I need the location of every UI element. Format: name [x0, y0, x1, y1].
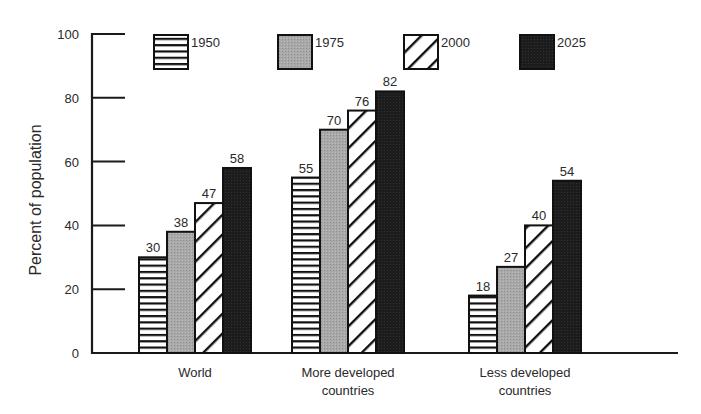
x-category-label: countries [322, 383, 375, 398]
bar-2000 [525, 225, 553, 353]
legend-label: 1975 [315, 35, 344, 50]
bar-1975 [497, 267, 525, 353]
x-category-label: Less developed [479, 365, 570, 380]
x-category-label: countries [499, 383, 552, 398]
data-label: 70 [327, 113, 341, 128]
bar-2000 [348, 111, 376, 353]
legend-swatch [404, 35, 438, 69]
bar-group: 30384758World [139, 151, 251, 380]
legend-item-2025: 2025 [520, 35, 586, 69]
legend-swatch [154, 35, 188, 69]
y-tick-label: 20 [65, 282, 79, 297]
data-label: 82 [383, 74, 397, 89]
bar-group: 18274054Less developedcountries [469, 164, 581, 398]
bar-2025 [376, 91, 404, 353]
y-tick-label: 40 [65, 218, 79, 233]
legend-item-2000: 2000 [404, 35, 470, 69]
y-axis-label: Percent of population [27, 124, 44, 275]
data-label: 40 [532, 208, 546, 223]
bar-group: 55707682More developedcountries [292, 74, 404, 398]
bar-1950 [469, 296, 497, 353]
y-tick-label: 60 [65, 155, 79, 170]
legend-swatch [278, 35, 312, 69]
data-label: 58 [230, 151, 244, 166]
data-label: 54 [560, 164, 574, 179]
bar-1950 [292, 178, 320, 353]
bar-1950 [139, 257, 167, 353]
x-category-label: World [178, 365, 212, 380]
bars: 30384758World55707682More developedcount… [139, 74, 581, 398]
y-axis-title: Percent of population [27, 124, 44, 275]
legend-label: 2000 [441, 35, 470, 50]
bar-2025 [553, 181, 581, 353]
data-label: 55 [299, 161, 313, 176]
bar-2025 [223, 168, 251, 353]
legend: 1950197520002025 [154, 35, 586, 69]
legend-label: 1950 [191, 35, 220, 50]
y-tick-label: 80 [65, 91, 79, 106]
bar-1975 [320, 130, 348, 353]
data-label: 38 [174, 215, 188, 230]
bar-2000 [195, 203, 223, 353]
legend-item-1975: 1975 [278, 35, 344, 69]
legend-item-1950: 1950 [154, 35, 220, 69]
data-label: 47 [202, 186, 216, 201]
data-label: 18 [476, 279, 490, 294]
y-tick-label: 100 [57, 27, 79, 42]
bar-chart: 020406080100 30384758World55707682More d… [0, 0, 701, 414]
legend-label: 2025 [557, 35, 586, 50]
legend-swatch [520, 35, 554, 69]
data-label: 27 [504, 250, 518, 265]
chart-canvas: 020406080100 30384758World55707682More d… [0, 0, 701, 414]
x-category-label: More developed [301, 365, 394, 380]
bar-1975 [167, 232, 195, 353]
data-label: 30 [146, 240, 160, 255]
data-label: 76 [355, 94, 369, 109]
y-tick-label: 0 [72, 346, 79, 361]
